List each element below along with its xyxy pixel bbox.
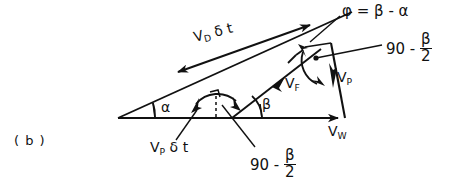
half-beta-fraction-top: β 2 bbox=[420, 32, 432, 64]
alpha-symbol: α bbox=[161, 99, 170, 115]
vf-symbol: V bbox=[285, 75, 295, 91]
beta-symbol: β bbox=[262, 96, 271, 112]
vp-dt-arc-arrowhead-right bbox=[230, 97, 241, 111]
vpdt-symbol: V bbox=[150, 139, 160, 155]
ninety-bottom-lead: 90 - bbox=[250, 156, 279, 174]
vw-label: VW bbox=[328, 124, 347, 140]
vw-subscript: W bbox=[338, 130, 347, 141]
half-beta-fraction-bottom: β 2 bbox=[284, 148, 296, 179]
phi-equation-label: φ = β - α bbox=[342, 4, 409, 19]
fraction-denominator: 2 bbox=[420, 49, 432, 65]
beta-label: β bbox=[262, 97, 271, 111]
ninety-top-lead: 90 - bbox=[386, 40, 415, 58]
alpha-label: α bbox=[161, 100, 170, 114]
vpdt-subscript: P bbox=[160, 146, 166, 157]
ninety-minus-half-beta-bottom-label: 90 - β 2 bbox=[250, 148, 296, 179]
vp-symbol: V bbox=[337, 69, 347, 85]
alpha-angle-tick bbox=[153, 103, 155, 118]
ninety-minus-half-beta-top-label: 90 - β 2 bbox=[386, 32, 432, 64]
vd-subscript: D bbox=[203, 32, 213, 44]
phi-symbol: φ bbox=[342, 2, 352, 20]
vp-subscript: P bbox=[347, 76, 353, 87]
vp-dt-leader-line bbox=[176, 110, 197, 140]
phi-beta: β bbox=[374, 2, 384, 20]
phi-equals: = bbox=[357, 2, 370, 20]
apex-cross-edge bbox=[305, 43, 331, 47]
ninety-bottom-leader-line bbox=[222, 105, 255, 147]
vf-label: VF bbox=[285, 76, 300, 92]
vf-subscript: F bbox=[295, 82, 300, 93]
vp-label: VP bbox=[337, 70, 352, 86]
fraction-denominator: 2 bbox=[284, 165, 296, 179]
phi-alpha: α bbox=[399, 2, 409, 20]
vpdt-delta-t: δ t bbox=[170, 139, 189, 155]
vd-delta-t: δ t bbox=[212, 20, 234, 40]
ninety-top-leader-line bbox=[316, 45, 382, 58]
figure-panel: φ = β - α 90 - β 2 VD δ t VF VP VW α β V… bbox=[0, 0, 449, 179]
vw-symbol: V bbox=[328, 123, 338, 139]
panel-label: ( b ) bbox=[14, 134, 46, 147]
apex-tick-1 bbox=[288, 55, 296, 63]
phi-minus: - bbox=[388, 2, 393, 20]
vp-delta-t-label: VP δ t bbox=[150, 140, 188, 156]
